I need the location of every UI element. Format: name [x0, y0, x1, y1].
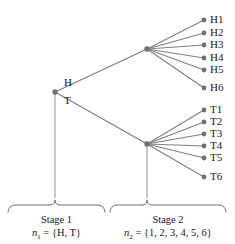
leaf-label-t6: T6: [210, 171, 222, 182]
nodes: [52, 18, 206, 180]
stage-1-caption: Stage 1 n1 = {H, T}: [8, 214, 105, 244]
leaf-label-t3: T3: [210, 128, 222, 139]
leaf-label-h5: H5: [210, 64, 223, 75]
stage-1-title: Stage 1: [8, 214, 105, 226]
edge-tails-to-t2: [147, 122, 204, 144]
leaf-label-h1: H1: [210, 14, 223, 25]
stage-2-set: {1, 2, 3, 4, 5, 6}: [144, 227, 212, 238]
stage2-edges-heads: [147, 20, 204, 88]
stage-braces: [8, 200, 226, 212]
stage-2-brace: [110, 200, 226, 212]
leaf-node-t1: [202, 108, 207, 113]
tree-graphics: [0, 0, 235, 244]
stage-2-formula: n2 = {1, 2, 3, 4, 5, 6}: [110, 226, 226, 244]
leaf-label-h3: H3: [210, 39, 223, 50]
edge-heads-to-h4: [147, 49, 204, 58]
branch-label-heads: H: [64, 77, 72, 88]
leaf-node-t5: [202, 156, 207, 161]
heads-node: [144, 46, 149, 51]
branch-label-tails: T: [64, 95, 71, 106]
stage-2-title: Stage 2: [110, 214, 226, 226]
leaf-node-h2: [202, 31, 207, 36]
stage2-edges-tails: [147, 110, 204, 177]
tails-node: [144, 141, 149, 146]
stage-1-subscript: 1: [37, 233, 41, 241]
leaf-node-h6: [202, 86, 207, 91]
leaf-label-t2: T2: [210, 116, 222, 127]
edge-heads-to-h6: [147, 49, 204, 88]
stage-2-caption: Stage 2 n2 = {1, 2, 3, 4, 5, 6}: [110, 214, 226, 244]
leaf-label-t4: T4: [210, 140, 222, 151]
stage-1-set: {H, T}: [52, 227, 81, 238]
leaf-node-h3: [202, 43, 207, 48]
leaf-label-t5: T5: [210, 152, 222, 163]
leaf-label-h2: H2: [210, 27, 223, 38]
probability-tree-diagram: H T H1 H2 H3 H4 H5 H6 T1 T2 T3 T4 T5 T6 …: [0, 0, 235, 244]
root-node: [52, 89, 57, 94]
leaf-node-t3: [202, 132, 207, 137]
leaf-label-t1: T1: [210, 104, 222, 115]
stage-1-brace: [8, 200, 105, 212]
stage-stems: [55, 94, 147, 198]
edge-heads-to-h5: [147, 49, 204, 70]
leaf-node-h1: [202, 18, 207, 23]
edge-tails-to-t6: [147, 144, 204, 177]
stage-2-equals: =: [135, 227, 141, 238]
leaf-node-h5: [202, 68, 207, 73]
leaf-node-t2: [202, 120, 207, 125]
edge-heads-to-h1: [147, 20, 204, 49]
stage-1-equals: =: [43, 227, 49, 238]
leaf-node-t4: [202, 144, 207, 149]
leaf-label-h6: H6: [210, 82, 223, 93]
leaf-label-h4: H4: [210, 52, 223, 63]
stage-1-formula: n1 = {H, T}: [8, 226, 105, 244]
stage-2-subscript: 2: [129, 233, 133, 241]
leaf-node-t6: [202, 175, 207, 180]
leaf-node-h4: [202, 56, 207, 61]
